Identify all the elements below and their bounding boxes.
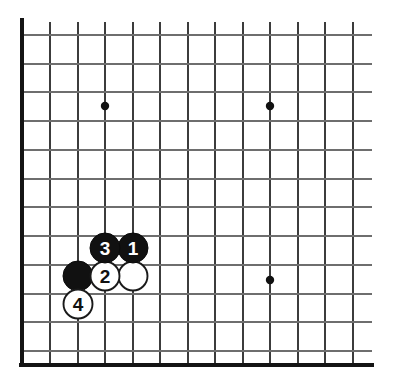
stone-move-1[interactable]: 1 xyxy=(118,233,148,263)
stone-move-4[interactable]: 4 xyxy=(64,290,93,319)
hoshi-upper-left-icon xyxy=(101,102,109,110)
go-board-canvas: 1234 xyxy=(0,0,395,388)
stone-move-number-label: 1 xyxy=(128,238,139,259)
board-background xyxy=(0,0,395,388)
go-board-diagram: 1234 xyxy=(0,0,395,388)
stone-move-number-label: 4 xyxy=(73,294,84,315)
stone-white-unnumbered[interactable] xyxy=(119,262,148,291)
stone-move-number-label: 3 xyxy=(100,238,111,259)
stone-move-3[interactable]: 3 xyxy=(90,233,120,263)
stone-move-number-label: 2 xyxy=(100,266,111,287)
hoshi-lower-right-icon xyxy=(266,276,274,284)
stone-black-disc xyxy=(63,261,93,291)
stone-white-disc xyxy=(119,262,148,291)
stone-black-unnumbered[interactable] xyxy=(63,261,93,291)
hoshi-upper-right-icon xyxy=(266,102,274,110)
stone-move-2[interactable]: 2 xyxy=(91,262,120,291)
